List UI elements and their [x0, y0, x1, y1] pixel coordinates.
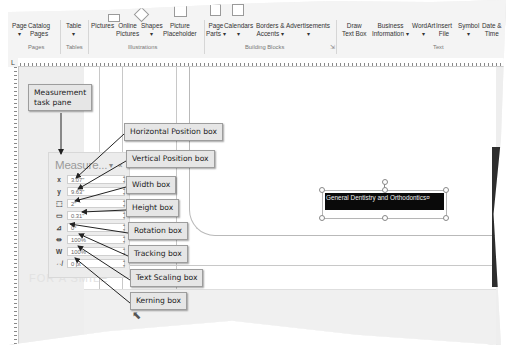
rotation-icon: ⊿ — [53, 223, 65, 233]
width-icon: ⬚ — [53, 199, 65, 209]
text-scaling-input[interactable]: 100% — [67, 247, 125, 256]
dialog-launcher-icon[interactable]: ⇲ — [330, 44, 335, 50]
callout-horizontal-position-box: Horizontal Position box — [124, 123, 223, 141]
rotation-handle[interactable] — [382, 179, 388, 185]
callout-tracking-box: Tracking box — [128, 245, 188, 263]
text-scaling-icon: W — [53, 247, 65, 257]
page-button[interactable]: Page▾ — [12, 22, 27, 38]
date-time-button[interactable]: Date &Time — [482, 22, 502, 38]
height-input[interactable]: 0.31" — [67, 211, 125, 220]
spinner-arrows[interactable]: ▴▾ — [123, 235, 125, 244]
mouse-pointer-icon: ⬉ — [132, 309, 141, 322]
vertical-ruler[interactable] — [8, 67, 19, 345]
width-input[interactable]: 2" — [67, 199, 125, 208]
text-box-content[interactable]: General Dentistry and Orthodontics¤ — [325, 193, 444, 210]
pane-title: Measure... — [55, 159, 107, 171]
advertisements-button[interactable]: Advertisements▾ — [286, 22, 330, 38]
resize-handle[interactable] — [319, 215, 325, 221]
rotation-row: ⊿ 0° ▴▾ — [52, 223, 128, 233]
width-row: ⬚ 2" ▴▾ — [52, 199, 128, 209]
horizontal-position-row: x 3.07" ▴▾ — [52, 175, 128, 185]
rotation-input[interactable]: 0° — [67, 223, 125, 232]
business-information-button[interactable]: BusinessInformation ▾ — [372, 22, 409, 38]
margin-guide — [84, 265, 496, 266]
group-separator — [60, 20, 61, 54]
spinner-arrows[interactable]: ▴▾ — [123, 259, 125, 268]
tracking-icon: ⇹ — [53, 235, 65, 245]
callout-kerning-box: Kerning box — [130, 292, 187, 310]
kerning-icon: ⇎ — [53, 259, 65, 269]
y-icon: y — [53, 187, 65, 197]
spinner-arrows[interactable]: ▴▾ — [123, 199, 125, 208]
horizontal-position-input[interactable]: 3.07" — [67, 175, 125, 184]
picture-placeholder-icon — [174, 2, 187, 17]
resize-handle[interactable] — [382, 215, 388, 221]
insert-file-button[interactable]: InsertFile — [436, 22, 452, 38]
calendars-icon — [232, 4, 244, 16]
pictures-button[interactable]: Pictures — [91, 22, 114, 30]
catalog-pages-button[interactable]: CatalogPages — [28, 22, 50, 38]
callout-width-box: Width box — [126, 176, 176, 194]
spinner-arrows[interactable]: ▴▾ — [123, 187, 125, 196]
horizontal-ruler[interactable] — [8, 58, 506, 67]
callout-rotation-box: Rotation box — [128, 222, 188, 240]
vertical-position-input[interactable]: 9.63" — [67, 187, 125, 196]
tracking-row: ⇹ 100% ▴▾ — [52, 235, 128, 245]
online-pictures-button[interactable]: OnlinePictures — [116, 22, 139, 38]
page-parts-icon — [210, 4, 221, 16]
group-separator — [88, 20, 89, 54]
table-button[interactable]: Table▾ — [66, 22, 81, 38]
group-label-illustrations: Illustrations — [128, 44, 157, 50]
picture-placeholder-button[interactable]: PicturePlaceholder — [163, 22, 197, 38]
measurement-task-pane: Measure... ▾ × x 3.07" ▴▾ y 9.63" ▴▾ ⬚ 2… — [48, 152, 130, 278]
online-pictures-icon — [108, 14, 120, 22]
resize-handle[interactable] — [443, 187, 449, 193]
calendars-button[interactable]: Calendars▾ — [224, 22, 253, 38]
pane-options-button[interactable]: ▾ — [109, 161, 113, 170]
draw-text-box-button[interactable]: DrawText Box — [342, 22, 367, 38]
kerning-row: ⇎ 0 pt ▴▾ — [52, 259, 128, 269]
dark-side-bar — [492, 147, 506, 287]
group-label-text: Text — [433, 44, 444, 50]
resize-handle[interactable] — [319, 187, 325, 193]
height-row: ▭ 0.31" ▴▾ — [52, 211, 128, 221]
symbol-button[interactable]: Symbol▾ — [458, 22, 479, 38]
kerning-input[interactable]: 0 pt — [67, 259, 125, 268]
vertical-position-row: y 9.63" ▴▾ — [52, 187, 128, 197]
height-icon: ▭ — [53, 211, 65, 221]
group-label-tables: Tables — [66, 44, 83, 50]
tracking-input[interactable]: 100% — [67, 235, 125, 244]
page-parts-button[interactable]: PageParts ▾ — [206, 22, 226, 38]
resize-handle[interactable] — [382, 187, 388, 193]
borders-accents-button[interactable]: Borders &Accents ▾ — [256, 22, 284, 38]
pane-close-button[interactable]: × — [118, 161, 123, 170]
text-scaling-row: W 100% ▴▾ — [52, 247, 128, 257]
ribbon-insert-tab: Page▾ CatalogPages Pages Table▾ Tables P… — [8, 0, 506, 59]
group-label-pages: Pages — [28, 44, 44, 50]
group-label-building-blocks: Building Blocks — [245, 44, 284, 50]
callout-height-box: Height box — [126, 199, 179, 217]
spinner-arrows[interactable]: ▴▾ — [123, 223, 125, 232]
group-separator — [336, 20, 337, 54]
shapes-icon — [134, 7, 150, 23]
spinner-arrows[interactable]: ▴▾ — [123, 211, 125, 220]
callout-text-scaling-box: Text Scaling box — [130, 269, 203, 287]
wordart-button[interactable]: WordArt▾ — [412, 22, 435, 38]
spinner-arrows[interactable]: ▴▾ — [123, 175, 125, 184]
resize-handle[interactable] — [443, 215, 449, 221]
tab-selector[interactable]: L — [8, 58, 18, 67]
callout-measurement-task-pane: Measurement task pane — [28, 84, 92, 111]
spinner-arrows[interactable]: ▴▾ — [123, 247, 125, 256]
x-icon: x — [53, 175, 65, 185]
screenshot-sheet: Page▾ CatalogPages Pages Table▾ Tables P… — [8, 0, 506, 345]
group-separator — [204, 20, 205, 54]
shapes-button[interactable]: Shapes▾ — [141, 22, 163, 38]
callout-vertical-position-box: Vertical Position box — [126, 150, 215, 168]
